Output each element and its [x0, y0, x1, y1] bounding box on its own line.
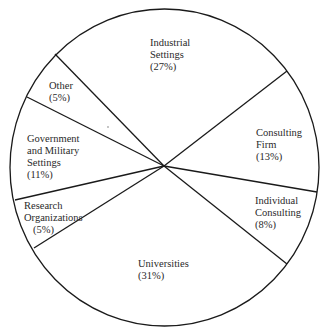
- svg-text:Industrial: Industrial: [150, 37, 190, 48]
- slice-label-research: Research Organizations (5%): [24, 200, 83, 236]
- pie-chart: Industrial Settings (27%) Other (5%) Gov…: [0, 0, 326, 332]
- svg-text:(27%): (27%): [150, 61, 177, 73]
- svg-text:Firm: Firm: [256, 139, 276, 150]
- svg-text:(11%): (11%): [27, 169, 53, 181]
- slice-label-consulting-firm: Consulting Firm (13%): [256, 127, 303, 163]
- svg-text:(31%): (31%): [138, 270, 165, 282]
- svg-text:(8%): (8%): [255, 219, 276, 231]
- svg-text:Consulting: Consulting: [256, 127, 303, 138]
- svg-text:Consulting: Consulting: [255, 207, 302, 218]
- svg-text:(13%): (13%): [256, 151, 283, 163]
- svg-text:Research: Research: [24, 200, 63, 211]
- slice-label-individual-consulting: Individual Consulting (8%): [255, 195, 302, 231]
- svg-text:(5%): (5%): [49, 92, 70, 104]
- slice-label-universities: Universities (31%): [138, 258, 189, 282]
- svg-text:Universities: Universities: [138, 258, 189, 269]
- stray-dot: [107, 126, 109, 128]
- slice-label-industrial: Industrial Settings (27%): [150, 37, 190, 73]
- svg-text:Organizations: Organizations: [24, 212, 83, 223]
- svg-text:Settings: Settings: [27, 157, 61, 168]
- slice-label-government: Government and Military Settings (11%): [27, 133, 80, 181]
- divider-consulting-firm-individual: [164, 166, 317, 192]
- svg-text:Settings: Settings: [150, 49, 184, 60]
- svg-text:and Military: and Military: [27, 145, 80, 156]
- svg-text:Other: Other: [49, 80, 73, 91]
- slice-label-other: Other (5%): [49, 80, 73, 104]
- svg-text:Individual: Individual: [255, 195, 298, 206]
- svg-text:Government: Government: [27, 133, 80, 144]
- svg-text:(5%): (5%): [33, 224, 54, 236]
